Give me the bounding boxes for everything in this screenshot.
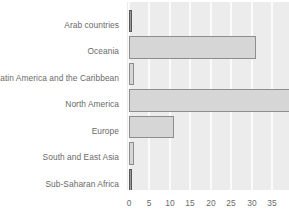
x-axis: 0 5 10 15 20 25 30 35	[127, 192, 289, 218]
bar-chart: Arab countries Oceania Latin America and…	[0, 0, 289, 220]
bar-oceania	[129, 36, 256, 59]
category-label-latin-america-and-the-caribbean: Latin America and the Caribbean	[0, 73, 119, 83]
bar-sub-saharan-africa	[129, 169, 132, 190]
category-axis-labels: Arab countries Oceania Latin America and…	[0, 0, 123, 192]
bar-south-and-east-asia	[129, 142, 134, 165]
category-label-south-and-east-asia: South and East Asia	[0, 152, 119, 162]
bar-europe	[129, 116, 174, 138]
category-label-europe: Europe	[0, 126, 119, 136]
bar-latin-america-and-the-caribbean	[129, 63, 134, 85]
category-label-north-america: North America	[0, 99, 119, 109]
bar-north-america	[129, 89, 289, 112]
bar-arab-countries	[129, 10, 132, 32]
category-label-sub-saharan-africa: Sub-Saharan Africa	[0, 179, 119, 189]
category-label-arab-countries: Arab countries	[0, 20, 119, 30]
xtick-label-35: 35	[257, 198, 287, 208]
category-label-oceania: Oceania	[0, 46, 119, 56]
plot-area	[127, 2, 289, 190]
